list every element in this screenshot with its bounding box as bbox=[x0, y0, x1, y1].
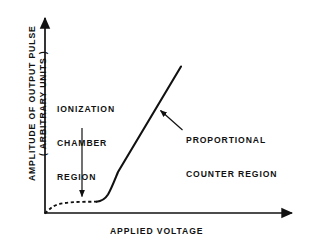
ionization-label-line-1: IONIZATION bbox=[57, 104, 115, 115]
proportional-region-arrow bbox=[161, 111, 183, 131]
ionization-label-line-2: CHAMBER bbox=[57, 138, 115, 149]
ionization-label-line-3: REGION bbox=[57, 172, 115, 183]
y-axis-label: AMPLITUDE OF OUTPUT PULSE ( ARBITRARY UN… bbox=[27, 3, 49, 203]
proportional-label-line-2: COUNTER REGION bbox=[186, 169, 277, 180]
proportional-label-line-1: PROPORTIONAL bbox=[186, 135, 277, 146]
proportional-counter-region-label: PROPORTIONAL COUNTER REGION bbox=[186, 113, 277, 203]
y-axis-label-line-2: ( ARBITRARY UNITS ) bbox=[38, 3, 49, 203]
ionization-chamber-figure: AMPLITUDE OF OUTPUT PULSE ( ARBITRARY UN… bbox=[0, 0, 311, 246]
ionization-chamber-region-label: IONIZATION CHAMBER REGION bbox=[57, 82, 115, 205]
x-axis-label: APPLIED VOLTAGE bbox=[110, 226, 203, 237]
y-axis-label-line-1: AMPLITUDE OF OUTPUT PULSE bbox=[27, 3, 38, 203]
